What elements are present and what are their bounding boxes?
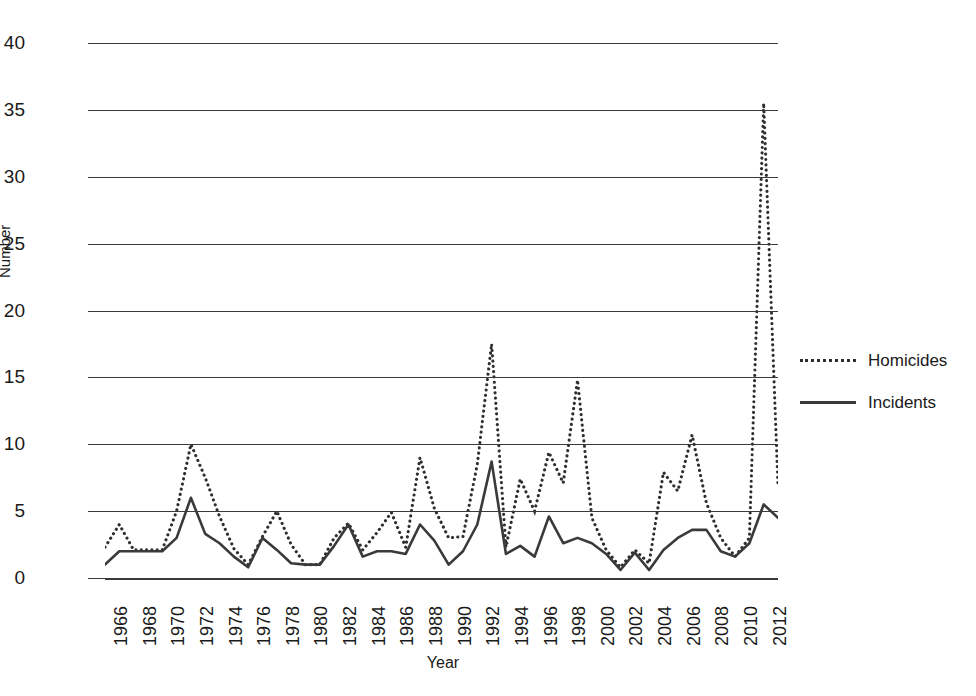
x-tick-label-1982: 1982 xyxy=(341,606,359,646)
series-line-homicides xyxy=(105,103,778,567)
legend-item-homicides[interactable]: Homicides xyxy=(800,340,976,382)
legend-swatch-dotted-icon xyxy=(800,356,856,366)
y-tick-label-0: 0 xyxy=(0,568,25,587)
y-tick-label-5: 5 xyxy=(0,501,25,520)
gridline-15 xyxy=(105,377,778,378)
gridline-10 xyxy=(105,444,778,445)
x-tick-label-1972: 1972 xyxy=(198,606,216,646)
plot-area xyxy=(105,43,778,578)
y-tick-mark-20 xyxy=(88,311,105,312)
x-tick-label-1978: 1978 xyxy=(284,606,302,646)
gridline-20 xyxy=(105,311,778,312)
legend-label: Homicides xyxy=(868,351,947,371)
x-tick-label-1968: 1968 xyxy=(141,606,159,646)
legend-swatch-solid-icon xyxy=(800,398,856,408)
x-axis-tick-labels: 1966196819701972197419761978198019821984… xyxy=(0,588,976,658)
x-tick-label-2008: 2008 xyxy=(713,606,731,646)
x-tick-label-2004: 2004 xyxy=(656,606,674,646)
y-tick-mark-25 xyxy=(88,244,105,245)
x-axis-title: Year xyxy=(0,654,886,672)
y-tick-mark-40 xyxy=(88,43,105,44)
y-tick-label-40: 40 xyxy=(0,33,25,52)
x-tick-label-2012: 2012 xyxy=(771,606,789,646)
y-tick-mark-35 xyxy=(88,110,105,111)
x-tick-label-1966: 1966 xyxy=(112,606,130,646)
y-tick-mark-10 xyxy=(88,444,105,445)
x-tick-label-1984: 1984 xyxy=(370,606,388,646)
gridline-25 xyxy=(105,244,778,245)
y-tick-mark-5 xyxy=(88,511,105,512)
x-tick-label-1974: 1974 xyxy=(227,606,245,646)
y-tick-label-35: 35 xyxy=(0,100,25,119)
y-tick-mark-0 xyxy=(88,578,105,579)
gridline-0 xyxy=(105,578,778,580)
chart-title xyxy=(0,0,760,8)
y-tick-mark-15 xyxy=(88,377,105,378)
x-tick-label-2010: 2010 xyxy=(742,606,760,646)
gridline-40 xyxy=(105,43,778,44)
gridline-5 xyxy=(105,511,778,512)
x-tick-label-1988: 1988 xyxy=(427,606,445,646)
legend-item-incidents[interactable]: Incidents xyxy=(800,382,976,424)
x-tick-label-2006: 2006 xyxy=(685,606,703,646)
x-tick-label-2000: 2000 xyxy=(599,606,617,646)
chart-figure: 0510152025303540 Number 1966196819701972… xyxy=(0,0,976,696)
y-tick-label-20: 20 xyxy=(0,301,25,320)
gridline-35 xyxy=(105,110,778,111)
x-tick-label-1996: 1996 xyxy=(542,606,560,646)
chart-legend: HomicidesIncidents xyxy=(800,340,976,424)
x-tick-label-1970: 1970 xyxy=(169,606,187,646)
x-tick-label-1994: 1994 xyxy=(513,606,531,646)
x-tick-label-1998: 1998 xyxy=(570,606,588,646)
gridline-30 xyxy=(105,177,778,178)
y-tick-mark-30 xyxy=(88,177,105,178)
y-tick-label-30: 30 xyxy=(0,167,25,186)
x-tick-label-1976: 1976 xyxy=(255,606,273,646)
y-tick-label-15: 15 xyxy=(0,367,25,386)
y-axis-title: Number xyxy=(0,225,13,278)
x-tick-label-2002: 2002 xyxy=(627,606,645,646)
series-line-incidents xyxy=(105,462,778,570)
legend-label: Incidents xyxy=(868,393,936,413)
x-tick-label-1992: 1992 xyxy=(484,606,502,646)
y-tick-label-10: 10 xyxy=(0,434,25,453)
x-tick-label-1986: 1986 xyxy=(398,606,416,646)
x-tick-label-1990: 1990 xyxy=(456,606,474,646)
x-tick-label-1980: 1980 xyxy=(312,606,330,646)
